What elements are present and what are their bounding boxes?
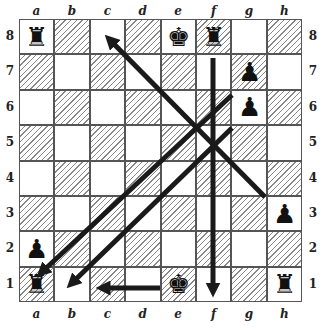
- square-b3[interactable]: [54, 196, 89, 231]
- square-d1[interactable]: [125, 267, 160, 302]
- square-g8[interactable]: [231, 19, 266, 54]
- square-b6[interactable]: [54, 90, 89, 125]
- square-b2[interactable]: [54, 231, 89, 266]
- square-c3[interactable]: [90, 196, 125, 231]
- file-label-f-bottom: f: [196, 307, 231, 321]
- square-d2[interactable]: [125, 231, 160, 266]
- square-f5[interactable]: [196, 125, 231, 160]
- black-pawn-icon[interactable]: ♟: [25, 236, 48, 262]
- square-e6[interactable]: [161, 90, 196, 125]
- square-g5[interactable]: [231, 125, 266, 160]
- rank-label-8-right: 8: [305, 29, 321, 43]
- black-rook-icon[interactable]: ♜: [25, 24, 48, 50]
- square-a8[interactable]: ♜: [19, 19, 54, 54]
- file-label-b-top: b: [54, 4, 89, 18]
- file-label-h-bottom: h: [267, 307, 302, 321]
- square-d7[interactable]: [125, 54, 160, 89]
- file-label-e-top: e: [161, 4, 196, 18]
- square-e1[interactable]: ♚: [161, 267, 196, 302]
- file-label-c-bottom: c: [90, 307, 125, 321]
- square-c5[interactable]: [90, 125, 125, 160]
- square-g3[interactable]: [231, 196, 266, 231]
- square-c2[interactable]: [90, 231, 125, 266]
- square-a6[interactable]: [19, 90, 54, 125]
- square-c6[interactable]: [90, 90, 125, 125]
- square-f3[interactable]: [196, 196, 231, 231]
- square-h5[interactable]: [267, 125, 302, 160]
- rank-label-8-left: 8: [2, 29, 18, 43]
- chess-board: ♜♚♜♟♟♟♟♜♚♜: [19, 19, 302, 302]
- square-d8[interactable]: [125, 19, 160, 54]
- square-h6[interactable]: [267, 90, 302, 125]
- square-g2[interactable]: [231, 231, 266, 266]
- square-e4[interactable]: [161, 161, 196, 196]
- square-d4[interactable]: [125, 161, 160, 196]
- black-rook-icon[interactable]: ♜: [202, 24, 225, 50]
- square-e8[interactable]: ♚: [161, 19, 196, 54]
- file-label-g-top: g: [231, 4, 266, 18]
- square-h8[interactable]: [267, 19, 302, 54]
- file-label-a-bottom: a: [19, 307, 54, 321]
- square-h1[interactable]: ♜: [267, 267, 302, 302]
- square-f2[interactable]: [196, 231, 231, 266]
- square-a1[interactable]: ♜: [19, 267, 54, 302]
- square-e2[interactable]: [161, 231, 196, 266]
- square-c4[interactable]: [90, 161, 125, 196]
- square-a4[interactable]: [19, 161, 54, 196]
- black-pawn-icon[interactable]: ♟: [238, 94, 261, 120]
- square-f7[interactable]: [196, 54, 231, 89]
- black-king-icon[interactable]: ♚: [167, 271, 190, 297]
- file-label-f-top: f: [196, 4, 231, 18]
- rank-label-3-right: 3: [305, 206, 321, 220]
- square-b7[interactable]: [54, 54, 89, 89]
- square-f4[interactable]: [196, 161, 231, 196]
- square-a5[interactable]: [19, 125, 54, 160]
- file-label-h-top: h: [267, 4, 302, 18]
- rank-label-5-left: 5: [2, 135, 18, 149]
- rank-label-6-left: 6: [2, 100, 18, 114]
- black-king-icon[interactable]: ♚: [167, 24, 190, 50]
- black-rook-icon[interactable]: ♜: [25, 271, 48, 297]
- square-h2[interactable]: [267, 231, 302, 266]
- square-h3[interactable]: ♟: [267, 196, 302, 231]
- square-b8[interactable]: [54, 19, 89, 54]
- square-e3[interactable]: [161, 196, 196, 231]
- square-b1[interactable]: [54, 267, 89, 302]
- square-b5[interactable]: [54, 125, 89, 160]
- square-d5[interactable]: [125, 125, 160, 160]
- black-pawn-icon[interactable]: ♟: [273, 201, 296, 227]
- square-a7[interactable]: [19, 54, 54, 89]
- square-g6[interactable]: ♟: [231, 90, 266, 125]
- rank-label-7-left: 7: [2, 64, 18, 78]
- square-c7[interactable]: [90, 54, 125, 89]
- square-e7[interactable]: [161, 54, 196, 89]
- square-d6[interactable]: [125, 90, 160, 125]
- square-h7[interactable]: [267, 54, 302, 89]
- square-f1[interactable]: [196, 267, 231, 302]
- square-g1[interactable]: [231, 267, 266, 302]
- rank-label-3-left: 3: [2, 206, 18, 220]
- rank-label-5-right: 5: [305, 135, 321, 149]
- file-label-a-top: a: [19, 4, 54, 18]
- square-a3[interactable]: [19, 196, 54, 231]
- square-f6[interactable]: [196, 90, 231, 125]
- square-f8[interactable]: ♜: [196, 19, 231, 54]
- rank-label-7-right: 7: [305, 64, 321, 78]
- square-h4[interactable]: [267, 161, 302, 196]
- square-a2[interactable]: ♟: [19, 231, 54, 266]
- rank-label-1-left: 1: [2, 277, 18, 291]
- square-c8[interactable]: [90, 19, 125, 54]
- rank-label-4-left: 4: [2, 171, 18, 185]
- rank-label-6-right: 6: [305, 100, 321, 114]
- square-d3[interactable]: [125, 196, 160, 231]
- file-label-d-bottom: d: [125, 307, 160, 321]
- square-e5[interactable]: [161, 125, 196, 160]
- file-label-e-bottom: e: [161, 307, 196, 321]
- square-b4[interactable]: [54, 161, 89, 196]
- file-label-c-top: c: [90, 4, 125, 18]
- square-g4[interactable]: [231, 161, 266, 196]
- square-c1[interactable]: [90, 267, 125, 302]
- square-g7[interactable]: ♟: [231, 54, 266, 89]
- black-rook-icon[interactable]: ♜: [273, 271, 296, 297]
- black-pawn-icon[interactable]: ♟: [238, 59, 261, 85]
